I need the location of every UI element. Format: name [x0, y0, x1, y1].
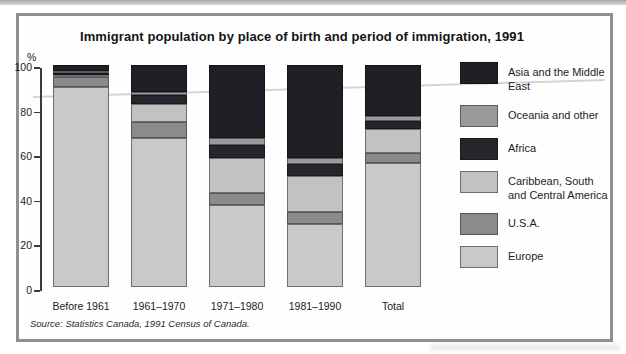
category-label: 1971–1980 [192, 300, 282, 312]
bar-segment [365, 163, 421, 287]
legend-swatch [460, 138, 498, 160]
bar-segment [287, 176, 343, 212]
bar-segment [209, 145, 265, 158]
y-tick [34, 245, 40, 247]
y-tick-label: 40 [8, 195, 32, 207]
y-tick-label: 20 [8, 239, 32, 251]
legend-item: Europe [460, 246, 610, 268]
bar-segment [287, 65, 343, 158]
legend-label: Asia and the Middle East [508, 62, 608, 94]
legend: Asia and the Middle EastOceania and othe… [460, 62, 610, 268]
bar-segment [287, 164, 343, 176]
y-tick [34, 156, 40, 158]
legend-swatch [460, 171, 498, 193]
bar-segment [209, 158, 265, 192]
legend-item: Africa [460, 138, 610, 160]
legend-item: U.S.A. [460, 213, 610, 235]
bar-segment [365, 65, 421, 116]
bar-segment [209, 193, 265, 205]
bar-segment [365, 129, 421, 152]
y-tick [34, 290, 40, 292]
bar-segment [287, 224, 343, 287]
legend-label: Oceania and other [508, 105, 599, 122]
legend-label: Europe [508, 246, 543, 263]
bar-segment [131, 104, 187, 122]
legend-item: Caribbean, South and Central America [460, 171, 610, 203]
chart-title: Immigrant population by place of birth a… [19, 29, 585, 44]
y-tick [34, 67, 40, 69]
legend-swatch [460, 213, 498, 235]
bar-before-1961 [53, 65, 109, 287]
bar-segment [209, 138, 265, 145]
category-label: Total [348, 300, 438, 312]
bar-1961-1970 [131, 65, 187, 287]
y-tick-label: 60 [8, 150, 32, 162]
y-tick [34, 201, 40, 203]
bar-1981-1990 [287, 65, 343, 287]
scan-artifact [430, 345, 620, 350]
figure-frame: Immigrant population by place of birth a… [16, 13, 613, 342]
bar-total [365, 65, 421, 287]
y-axis-line [40, 68, 42, 291]
bar-segment [53, 87, 109, 287]
bar-segment [53, 77, 109, 87]
bar-segment [209, 205, 265, 287]
bar-segment [287, 212, 343, 224]
bar-segment [209, 65, 265, 138]
y-tick-label: 100 [8, 61, 32, 73]
legend-label: Africa [508, 138, 536, 155]
category-label: Before 1961 [36, 300, 126, 312]
bar-segment [131, 138, 187, 287]
bar-segment [365, 121, 421, 130]
bar-segment [131, 95, 187, 104]
legend-item: Oceania and other [460, 105, 610, 127]
legend-label: U.S.A. [508, 213, 540, 230]
legend-swatch [460, 105, 498, 127]
bar-segment [131, 65, 187, 92]
category-label: 1981–1990 [270, 300, 360, 312]
category-label: 1961–1970 [114, 300, 204, 312]
legend-label: Caribbean, South and Central America [508, 171, 608, 203]
y-tick-label: 0 [8, 284, 32, 296]
legend-swatch [460, 246, 498, 268]
y-tick [34, 112, 40, 114]
y-tick-label: 80 [8, 106, 32, 118]
scan-edge-artifact [0, 0, 626, 5]
source-note: Source: Statistics Canada, 1991 Census o… [30, 318, 250, 329]
legend-swatch [460, 62, 498, 84]
bar-segment [131, 122, 187, 139]
bar-1971-1980 [209, 65, 265, 287]
bar-segment [365, 153, 421, 163]
legend-item: Asia and the Middle East [460, 62, 610, 94]
